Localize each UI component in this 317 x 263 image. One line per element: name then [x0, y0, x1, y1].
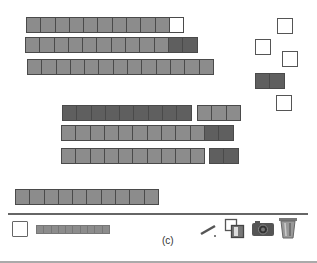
pencil-icon[interactable]: [199, 224, 219, 238]
rod-cell: [132, 125, 147, 141]
rod-cell: [162, 105, 177, 121]
palette-rod-cell: [102, 225, 110, 234]
dark-pair-rod[interactable]: [255, 73, 284, 89]
rod-cell: [182, 37, 197, 53]
rod-cell: [154, 37, 169, 53]
rod-cell: [127, 59, 142, 75]
unit-square[interactable]: [255, 39, 271, 55]
rod-cell: [209, 148, 224, 164]
rod-cell: [97, 17, 112, 33]
rod-cell: [69, 17, 84, 33]
camera-icon[interactable]: [251, 219, 275, 237]
rod-cell: [70, 59, 85, 75]
rod-cell: [27, 59, 42, 75]
rod-cell: [84, 59, 99, 75]
rod-cell: [91, 105, 106, 121]
rod-cell: [118, 148, 133, 164]
rod-cell: [29, 189, 44, 205]
rod-cell: [44, 189, 59, 205]
rod-cell: [144, 189, 159, 205]
rod-cell: [125, 37, 140, 53]
rod-cell: [75, 125, 90, 141]
rod-cell: [76, 105, 91, 121]
rod-cell: [54, 37, 69, 53]
rod-cell: [104, 148, 119, 164]
rod-cell: [41, 59, 56, 75]
rod-cell: [15, 189, 30, 205]
rod-row7[interactable]: [15, 189, 158, 205]
rod-cell: [86, 189, 101, 205]
rod-cell: [199, 59, 214, 75]
rod-cell: [168, 37, 183, 53]
overlap-squares-icon[interactable]: [224, 218, 246, 240]
rod-row5[interactable]: [61, 125, 233, 141]
rod-cell: [190, 148, 205, 164]
rod-cell: [26, 17, 41, 33]
rod-cell: [147, 125, 162, 141]
rod-cell: [133, 105, 148, 121]
rod-row1[interactable]: [26, 17, 183, 33]
rod-cell: [161, 125, 176, 141]
toolbar-divider: [8, 213, 308, 215]
rod-cell: [184, 59, 199, 75]
rod-cell: [119, 105, 134, 121]
rod-cell: [255, 73, 270, 89]
rod-cell: [101, 189, 116, 205]
unit-square[interactable]: [276, 95, 292, 111]
rod-cell: [68, 37, 83, 53]
rod-row4a[interactable]: [62, 105, 191, 121]
rod-cell: [105, 105, 120, 121]
rod-cell: [55, 17, 70, 33]
unit-square[interactable]: [282, 51, 298, 67]
rod-cell: [175, 125, 190, 141]
rod-cell: [148, 105, 163, 121]
rod-cell: [132, 148, 147, 164]
rod-cell: [156, 59, 171, 75]
trash-icon[interactable]: [278, 217, 298, 239]
rod-cell: [141, 59, 156, 75]
rod-row6a[interactable]: [61, 148, 204, 164]
rod-cell: [175, 148, 190, 164]
rod-row2[interactable]: [25, 37, 197, 53]
rod-cell: [62, 105, 77, 121]
rod-cell: [104, 125, 119, 141]
rod-cell: [269, 73, 284, 89]
rod-cell: [58, 189, 73, 205]
rod-cell: [118, 125, 133, 141]
rod-cell: [40, 17, 55, 33]
rod-cell: [61, 148, 76, 164]
rod-cell: [140, 17, 155, 33]
rod-cell: [223, 148, 238, 164]
rod-cell: [56, 59, 71, 75]
rod-cell: [211, 105, 226, 121]
rod-row6b[interactable]: [209, 148, 238, 164]
rod-cell: [98, 59, 113, 75]
rod-cell: [176, 105, 191, 121]
palette-unit-square[interactable]: [12, 221, 28, 237]
rod-cell: [112, 17, 127, 33]
rod-cell: [161, 148, 176, 164]
rod-cell: [115, 189, 130, 205]
palette-ten-rod[interactable]: [36, 225, 109, 234]
rod-cell: [82, 37, 97, 53]
rod-cell: [139, 37, 154, 53]
rod-cell: [226, 105, 241, 121]
rod-row4b[interactable]: [197, 105, 240, 121]
rod-cell: [170, 59, 185, 75]
rod-cell: [90, 125, 105, 141]
rod-cell: [83, 17, 98, 33]
rod-cell: [96, 37, 111, 53]
rod-cell: [197, 105, 212, 121]
rod-cell: [39, 37, 54, 53]
rod-cell: [126, 17, 141, 33]
rod-cell: [113, 59, 128, 75]
rod-cell: [204, 125, 219, 141]
rod-cell: [169, 17, 184, 33]
unit-square[interactable]: [277, 18, 293, 34]
rod-cell: [218, 125, 233, 141]
rod-cell: [190, 125, 205, 141]
rod-cell: [147, 148, 162, 164]
rod-row3[interactable]: [27, 59, 213, 75]
caption-label: (c): [162, 235, 174, 246]
rod-cell: [75, 148, 90, 164]
